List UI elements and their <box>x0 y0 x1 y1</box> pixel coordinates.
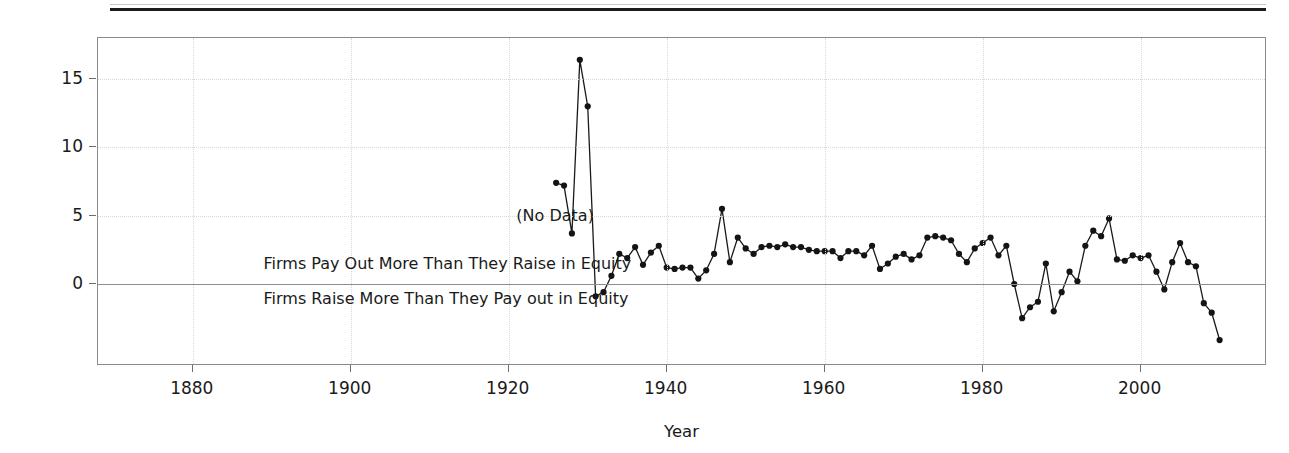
gridline-horizontal <box>98 216 1265 218</box>
x-tick-label: 2000 <box>1105 380 1175 397</box>
series-data-point <box>829 248 835 254</box>
gridline-vertical <box>983 38 985 364</box>
x-tick-mark <box>192 365 193 372</box>
series-data-point <box>901 251 907 257</box>
series-data-point <box>679 265 685 271</box>
series-data-point <box>577 57 583 63</box>
y-tick-label: 5 <box>49 207 83 224</box>
x-tick-label: 1960 <box>789 380 859 397</box>
series-data-point <box>1098 233 1104 239</box>
series-data-point <box>640 262 646 268</box>
gridline-vertical <box>193 38 195 364</box>
series-data-point <box>1161 286 1167 292</box>
series-data-point <box>750 251 756 257</box>
gridline-horizontal <box>98 79 1265 81</box>
series-data-point <box>956 251 962 257</box>
series-data-point <box>727 259 733 265</box>
series-data-point <box>1082 243 1088 249</box>
series-data-point <box>1059 289 1065 295</box>
y-tick-label: 10 <box>49 138 83 155</box>
y-tick-mark <box>89 283 96 284</box>
series-data-point <box>774 244 780 250</box>
series-data-point <box>869 243 875 249</box>
net-payout-line-series <box>98 38 1267 366</box>
series-data-point <box>932 233 938 239</box>
series-data-point <box>940 234 946 240</box>
series-data-point <box>845 248 851 254</box>
y-axis-title: Net Payout To Price Ratio, in % <box>0 0 2 328</box>
series-data-point <box>743 245 749 251</box>
series-data-point <box>766 243 772 249</box>
series-data-point <box>561 183 567 189</box>
series-line <box>556 60 1219 340</box>
series-data-point <box>782 241 788 247</box>
x-tick-label: 1900 <box>315 380 385 397</box>
figure-root: 1880190019201940196019802000051015 Net P… <box>0 0 1289 453</box>
series-data-point <box>995 252 1001 258</box>
y-tick-mark <box>89 78 96 79</box>
gridline-vertical <box>1141 38 1143 364</box>
gridline-vertical <box>509 38 511 364</box>
series-data-point <box>1035 299 1041 305</box>
series-data-point <box>703 267 709 273</box>
series-data-point <box>711 251 717 257</box>
annotation-raise-more: Firms Raise More Than They Pay out in Eq… <box>264 290 629 308</box>
series-data-point <box>861 252 867 258</box>
series-data-point <box>569 230 575 236</box>
series-data-point <box>885 260 891 266</box>
series-data-point <box>719 206 725 212</box>
annotation-no-data: (No Data) <box>455 207 655 225</box>
series-data-point <box>1122 258 1128 264</box>
x-tick-label: 1920 <box>473 380 543 397</box>
series-data-point <box>1051 308 1057 314</box>
y-tick-mark <box>89 215 96 216</box>
series-data-point <box>632 244 638 250</box>
series-data-point <box>1169 259 1175 265</box>
series-data-point <box>735 234 741 240</box>
y-tick-mark <box>89 146 96 147</box>
series-data-point <box>758 244 764 250</box>
series-data-point <box>1185 259 1191 265</box>
series-data-point <box>695 275 701 281</box>
y-tick-label: 0 <box>49 275 83 292</box>
x-tick-mark <box>824 365 825 372</box>
series-data-point <box>672 266 678 272</box>
gridline-vertical <box>667 38 669 364</box>
x-tick-mark <box>508 365 509 372</box>
series-data-point <box>1043 260 1049 266</box>
x-tick-mark <box>982 365 983 372</box>
series-data-point <box>964 259 970 265</box>
gridline-vertical <box>351 38 353 364</box>
series-data-point <box>948 237 954 243</box>
x-tick-mark <box>350 365 351 372</box>
x-tick-label: 1980 <box>947 380 1017 397</box>
series-data-point <box>1201 300 1207 306</box>
gridline-horizontal <box>98 147 1265 149</box>
series-data-point <box>1153 269 1159 275</box>
gridline-vertical <box>825 38 827 364</box>
series-data-point <box>687 265 693 271</box>
x-tick-label: 1880 <box>157 380 227 397</box>
series-data-point <box>908 256 914 262</box>
series-data-point <box>656 243 662 249</box>
series-data-point <box>1090 228 1096 234</box>
series-data-point <box>553 180 559 186</box>
series-data-point <box>877 266 883 272</box>
series-data-point <box>790 244 796 250</box>
x-tick-mark <box>1140 365 1141 372</box>
series-data-point <box>648 249 654 255</box>
figure-top-rule-faint <box>110 4 1266 5</box>
series-data-point <box>987 234 993 240</box>
plot-area <box>97 37 1266 365</box>
figure-top-rule <box>110 8 1266 11</box>
series-data-point <box>814 248 820 254</box>
series-data-point <box>1114 256 1120 262</box>
series-data-point <box>837 255 843 261</box>
x-tick-label: 1940 <box>631 380 701 397</box>
series-data-point <box>1027 304 1033 310</box>
series-data-point <box>972 245 978 251</box>
series-data-point <box>806 247 812 253</box>
series-data-point <box>853 248 859 254</box>
series-data-point <box>1019 315 1025 321</box>
series-data-point <box>1066 269 1072 275</box>
